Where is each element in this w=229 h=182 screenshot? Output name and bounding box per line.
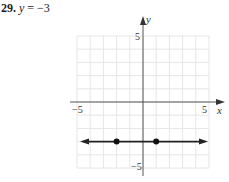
axis-labels: −5 5 x 5 −5 y — [72, 13, 222, 172]
coordinate-plane: −5 5 x 5 −5 y — [0, 0, 229, 182]
y-axis-label: y — [145, 13, 151, 25]
left-arrow-icon — [80, 139, 89, 145]
x-min-label: −5 — [72, 104, 83, 115]
x-max-label: 5 — [202, 104, 207, 115]
data-point — [153, 139, 159, 145]
y-min-label: −5 — [131, 161, 142, 172]
line-y-equals-neg3 — [80, 139, 208, 145]
axes — [70, 16, 225, 176]
right-arrow-icon — [199, 139, 208, 145]
x-axis-label: x — [216, 104, 222, 116]
data-point — [114, 139, 120, 145]
y-max-label: 5 — [135, 31, 140, 42]
